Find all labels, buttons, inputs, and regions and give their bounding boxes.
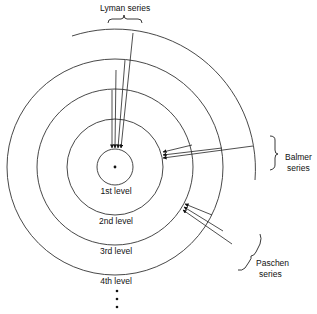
level-label-2: 2nd level [99,216,133,226]
paschen-label-line2: series [259,269,282,279]
lyman-ray-2 [115,70,116,148]
balmer-label-line2: series [287,163,310,173]
balmer-ray-1 [163,145,192,152]
lyman-brace [108,15,142,23]
balmer-rays [163,145,253,158]
dot-3 [116,306,119,309]
lyman-ray-3 [118,60,125,148]
continuation-dots [116,290,119,309]
atom-diagram: Lyman series Balmer series Paschen serie… [0,0,317,314]
balmer-label-line1: Balmer [285,152,312,162]
paschen-rays [183,204,232,244]
dot-2 [116,298,119,301]
paschen-ray-1 [185,204,212,215]
balmer-brace [270,136,278,170]
level-label-4: 4th level [100,276,132,286]
paschen-ray-2 [184,207,223,231]
paschen-label-line1: Paschen [256,258,289,268]
level-label-3: 3rd level [100,246,132,256]
dot-1 [116,290,119,293]
level-label-1: 1st level [100,186,131,196]
nucleus-dot [114,166,117,169]
balmer-ray-3 [163,146,253,158]
paschen-ray-3 [183,210,232,244]
lyman-label: Lyman series [100,3,150,13]
